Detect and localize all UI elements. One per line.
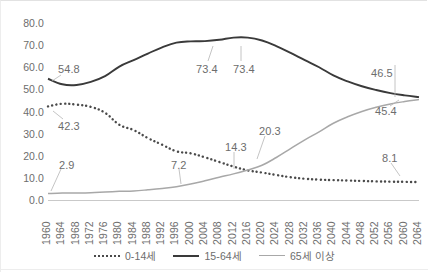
x-axis-tick: 2012 [226, 221, 238, 245]
x-axis-tick: 2044 [340, 221, 352, 245]
x-axis-tick: 2048 [354, 221, 366, 245]
y-axis-tick: 50.0 [23, 83, 44, 95]
x-axis-tick: 1960 [40, 221, 52, 245]
x-axis-tick: 1976 [97, 221, 109, 245]
chart-legend: 0-14세15-64세65세 이상 [1, 248, 428, 263]
data-label: 2.9 [59, 159, 75, 171]
x-axis-tick: 2024 [268, 221, 280, 245]
y-axis-tick: 10.0 [23, 172, 44, 184]
y-axis-tick: 40.0 [23, 106, 44, 118]
x-axis-tick: 1968 [69, 221, 81, 245]
y-axis-tick: 20.0 [23, 150, 44, 162]
y-axis-tick: 30.0 [23, 128, 44, 140]
x-axis-tick: 1972 [83, 221, 95, 245]
data-label: 7.2 [171, 159, 187, 171]
legend-swatch-icon [94, 255, 120, 257]
x-axis-tick: 1980 [111, 221, 123, 245]
data-label: 14.3 [225, 141, 247, 153]
legend-item[interactable]: 15-64세 [173, 248, 241, 263]
x-axis-tick: 2064 [411, 221, 423, 245]
y-axis-tick: 60.0 [23, 61, 44, 73]
legend-item[interactable]: 0-14세 [94, 248, 157, 263]
x-axis-tick: 1988 [140, 221, 152, 245]
legend-label: 0-14세 [125, 248, 157, 263]
legend-label: 65세 이상 [290, 248, 335, 263]
data-label: 46.5 [371, 67, 393, 79]
series-lines [48, 23, 419, 200]
x-axis-tick: 2052 [368, 221, 380, 245]
data-label: 73.4 [233, 63, 255, 75]
legend-label: 15-64세 [204, 248, 241, 263]
x-axis-tick: 1996 [168, 221, 180, 245]
x-axis-tick: 2008 [211, 221, 223, 245]
y-axis-tick: 0.0 [29, 194, 44, 206]
y-axis-tick: 80.0 [23, 17, 44, 29]
data-label: 20.3 [259, 125, 281, 137]
x-axis-tick: 1984 [126, 221, 138, 245]
x-axis-tick: 2036 [311, 221, 323, 245]
data-label: 42.3 [58, 120, 80, 132]
legend-swatch-icon [259, 255, 285, 256]
x-axis-tick: 2056 [382, 221, 394, 245]
x-axis-tick: 2016 [240, 221, 252, 245]
bottom-divider [1, 269, 428, 270]
data-label: 73.4 [196, 63, 218, 75]
x-axis-tick: 2028 [283, 221, 295, 245]
legend-item[interactable]: 65세 이상 [259, 248, 335, 263]
x-axis-tick: 2020 [254, 221, 266, 245]
y-axis-tick: 70.0 [23, 39, 44, 51]
x-axis: 1960196419681972197619801984198819921996… [48, 203, 419, 245]
x-axis-tick: 2000 [183, 221, 195, 245]
x-axis-tick: 1992 [154, 221, 166, 245]
x-axis-tick: 2060 [397, 221, 409, 245]
y-axis: 80.070.060.050.040.030.020.010.00.0 [1, 23, 44, 200]
x-axis-tick: 1964 [54, 221, 66, 245]
x-axis-tick: 2032 [297, 221, 309, 245]
plot-area [48, 23, 419, 200]
data-label: 54.8 [58, 63, 80, 75]
legend-swatch-icon [173, 255, 199, 257]
x-axis-line [48, 200, 419, 201]
x-axis-tick: 2004 [197, 221, 209, 245]
data-label: 45.4 [375, 105, 397, 117]
data-label: 8.1 [382, 152, 398, 164]
x-axis-tick: 2040 [325, 221, 337, 245]
